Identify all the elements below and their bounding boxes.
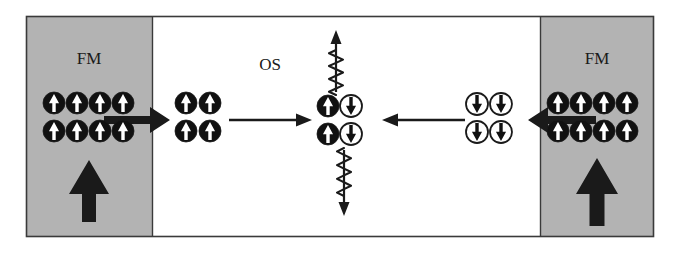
region-label-os: OS: [259, 55, 281, 74]
spin-particle-up: [547, 120, 569, 142]
figure-canvas: FMOSFM: [0, 0, 682, 253]
spin-particle-down: [340, 123, 362, 145]
spin-particle-up: [547, 92, 569, 114]
spin-particle-up: [175, 120, 197, 142]
spin-particle-up: [43, 120, 65, 142]
spin-particle-up: [199, 92, 221, 114]
spin-particle-down: [340, 95, 362, 117]
spin-particle-down: [466, 93, 488, 115]
region-label-fm-right: FM: [585, 49, 610, 68]
spin-particle-up: [593, 120, 615, 142]
spin-particle-down: [466, 121, 488, 143]
spin-particle-up: [89, 120, 111, 142]
spin-particle-down: [490, 93, 512, 115]
spin-particle-up: [317, 95, 339, 117]
spin-particle-up: [66, 92, 88, 114]
spin-particle-up: [89, 92, 111, 114]
spin-particle-up: [317, 123, 339, 145]
spin-particle-up: [593, 92, 615, 114]
spin-particle-up: [570, 120, 592, 142]
spin-particle-up: [66, 120, 88, 142]
spin-particle-up: [570, 92, 592, 114]
spin-particle-up: [199, 120, 221, 142]
spin-particle-up: [616, 120, 638, 142]
spin-particle-up: [112, 92, 134, 114]
spin-particle-up: [43, 92, 65, 114]
spin-transport-diagram: FMOSFM: [0, 0, 682, 253]
spin-particle-up: [175, 92, 197, 114]
spin-particle-up: [112, 120, 134, 142]
region-label-fm-left: FM: [77, 49, 102, 68]
spin-particle-down: [490, 121, 512, 143]
spin-particle-up: [616, 92, 638, 114]
